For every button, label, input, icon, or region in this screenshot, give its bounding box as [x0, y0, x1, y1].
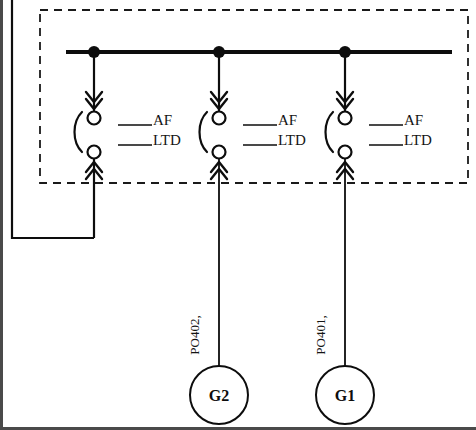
breaker-3-af-label: AF — [404, 112, 423, 128]
breaker-3-drawout-arc — [326, 112, 334, 152]
breaker-2-upper-contact — [213, 112, 226, 125]
left-feeder-loop — [12, 0, 94, 238]
switchgear-enclosure-box — [40, 10, 468, 183]
breaker-3-ltd-label: LTD — [404, 132, 432, 148]
generator-g2-label: G2 — [209, 387, 229, 404]
breaker-2-rating-labels: AF LTD — [243, 112, 306, 148]
breaker-3-rating-labels: AF LTD — [369, 112, 432, 148]
breaker-2-lower-contact — [213, 146, 226, 159]
breaker-1-ltd-label: LTD — [153, 132, 181, 148]
breaker-3-upper-contact — [339, 112, 352, 125]
breaker-1-af-label: AF — [153, 112, 172, 128]
generator-g2[interactable]: G2 — [190, 366, 248, 424]
diagram-canvas: AF LTD AF LTD — [0, 0, 476, 430]
generator-g1[interactable]: G1 — [316, 366, 374, 424]
breaker-1-rating-labels: AF LTD — [118, 112, 181, 148]
breaker-2-ltd-label: LTD — [278, 132, 306, 148]
generator-g1-label: G1 — [335, 387, 355, 404]
breaker-2-drawout-arc — [200, 112, 208, 152]
generator-g2-cable-label: PO402, — [187, 315, 202, 354]
breaker-assembly-2[interactable] — [200, 52, 228, 366]
breaker-1-lower-contact — [88, 146, 101, 159]
generator-g1-cable-label: PO401, — [313, 315, 328, 354]
breaker-3-lower-contact — [339, 146, 352, 159]
page-left-border — [0, 0, 3, 430]
single-line-diagram: AF LTD AF LTD — [0, 0, 476, 430]
breaker-1-drawout-arc — [75, 112, 83, 152]
breaker-assembly-1[interactable] — [75, 52, 103, 238]
breaker-assembly-3[interactable] — [326, 52, 354, 366]
breaker-1-upper-contact — [88, 112, 101, 125]
breaker-2-af-label: AF — [278, 112, 297, 128]
